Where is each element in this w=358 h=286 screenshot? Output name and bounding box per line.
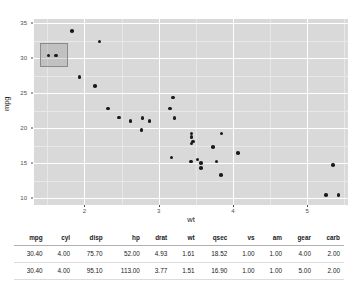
table-cell: 3.77 bbox=[144, 262, 171, 279]
table-cell: 113.00 bbox=[107, 262, 144, 279]
data-table: mpgcyldisphpdratwtqsecvsamgearcarb 30.40… bbox=[14, 231, 344, 280]
table-column-header[interactable]: hp bbox=[107, 231, 144, 245]
y-tick-mark bbox=[31, 23, 33, 24]
gridline-minor-vertical bbox=[122, 19, 123, 205]
table-cell: 5.00 bbox=[286, 262, 315, 279]
gridline-major-horizontal bbox=[34, 23, 348, 24]
table-column-header[interactable]: cyl bbox=[47, 231, 74, 245]
table-column-header[interactable]: gear bbox=[286, 231, 315, 245]
table-cell: 2.00 bbox=[315, 245, 344, 262]
data-point[interactable] bbox=[171, 96, 175, 100]
x-tick-label: 5 bbox=[295, 208, 319, 214]
plot-panel[interactable] bbox=[34, 19, 348, 205]
table-cell: 30.40 bbox=[14, 262, 47, 279]
gridline-minor-vertical bbox=[196, 19, 197, 205]
data-point[interactable] bbox=[337, 193, 341, 197]
data-point[interactable] bbox=[236, 151, 240, 155]
x-axis-title: wt bbox=[34, 216, 348, 224]
gridline-minor-horizontal bbox=[34, 146, 348, 147]
table-column-header[interactable]: disp bbox=[74, 231, 107, 245]
table-column-header[interactable]: qsec bbox=[199, 231, 232, 245]
table-cell: 1.00 bbox=[231, 245, 258, 262]
table-cell: 1.00 bbox=[259, 245, 286, 262]
table-cell: 75.70 bbox=[74, 245, 107, 262]
scatter-plot[interactable]: mpg wt 1015202530352345 bbox=[0, 0, 358, 228]
y-tick-mark bbox=[31, 128, 33, 129]
data-point[interactable] bbox=[331, 163, 335, 167]
table-cell: 4.00 bbox=[47, 262, 74, 279]
y-tick-label: 20 bbox=[5, 125, 27, 131]
data-point[interactable] bbox=[211, 145, 215, 149]
table-cell: 30.40 bbox=[14, 245, 47, 262]
table-row[interactable]: 30.404.0095.10113.003.771.5116.901.001.0… bbox=[14, 262, 344, 279]
data-point[interactable] bbox=[148, 119, 152, 123]
table-cell: 1.00 bbox=[231, 262, 258, 279]
table-cell: 1.51 bbox=[171, 262, 198, 279]
data-point[interactable] bbox=[129, 119, 133, 123]
data-point[interactable] bbox=[93, 84, 97, 88]
data-point[interactable] bbox=[98, 40, 102, 44]
gridline-major-horizontal bbox=[34, 128, 348, 129]
plot-and-table-page: mpg wt 1015202530352345 mpgcyldisphpdrat… bbox=[0, 0, 358, 286]
data-point[interactable] bbox=[199, 166, 203, 170]
x-tick-mark bbox=[84, 205, 85, 207]
y-tick-mark bbox=[31, 198, 33, 199]
selected-rows-table: mpgcyldisphpdratwtqsecvsamgearcarb 30.40… bbox=[14, 231, 344, 280]
table-body: 30.404.0075.7052.004.931.6118.521.001.00… bbox=[14, 245, 344, 279]
y-tick-mark bbox=[31, 163, 33, 164]
gridline-minor-horizontal bbox=[34, 181, 348, 182]
y-tick-mark bbox=[31, 58, 33, 59]
data-point[interactable] bbox=[140, 128, 144, 132]
gridline-major-horizontal bbox=[34, 58, 348, 59]
data-point[interactable] bbox=[190, 135, 194, 139]
table-cell: 95.10 bbox=[74, 262, 107, 279]
table-column-header[interactable]: drat bbox=[144, 231, 171, 245]
table-column-header[interactable]: mpg bbox=[14, 231, 47, 245]
table-column-header[interactable]: am bbox=[259, 231, 286, 245]
table-cell: 2.00 bbox=[315, 262, 344, 279]
table-column-header[interactable]: vs bbox=[231, 231, 258, 245]
table-cell: 4.93 bbox=[144, 245, 171, 262]
data-point[interactable] bbox=[170, 156, 174, 160]
gridline-minor-horizontal bbox=[34, 111, 348, 112]
table-column-header[interactable]: wt bbox=[171, 231, 198, 245]
gridline-major-vertical bbox=[307, 19, 308, 205]
gridline-major-vertical bbox=[233, 19, 234, 205]
x-tick-mark bbox=[233, 205, 234, 207]
gridline-minor-horizontal bbox=[34, 41, 348, 42]
x-tick-mark bbox=[159, 205, 160, 207]
gridline-major-horizontal bbox=[34, 163, 348, 164]
data-point[interactable] bbox=[141, 116, 145, 120]
gridline-minor-vertical bbox=[270, 19, 271, 205]
data-point[interactable] bbox=[78, 75, 82, 79]
gridline-major-horizontal bbox=[34, 93, 348, 94]
data-point[interactable] bbox=[70, 29, 74, 33]
gridline-minor-horizontal bbox=[34, 76, 348, 77]
data-point[interactable] bbox=[173, 116, 177, 120]
data-point[interactable] bbox=[220, 132, 224, 136]
data-point[interactable] bbox=[54, 54, 58, 58]
x-tick-label: 3 bbox=[147, 208, 171, 214]
y-tick-label: 35 bbox=[5, 20, 27, 26]
data-point[interactable] bbox=[168, 107, 172, 111]
y-tick-label: 30 bbox=[5, 55, 27, 61]
table-cell: 4.00 bbox=[47, 245, 74, 262]
x-tick-label: 4 bbox=[221, 208, 245, 214]
table-cell: 52.00 bbox=[107, 245, 144, 262]
table-row[interactable]: 30.404.0075.7052.004.931.6118.521.001.00… bbox=[14, 245, 344, 262]
gridline-major-horizontal bbox=[34, 198, 348, 199]
table-cell: 18.52 bbox=[199, 245, 232, 262]
table-column-header[interactable]: carb bbox=[315, 231, 344, 245]
gridline-minor-vertical bbox=[344, 19, 345, 205]
x-tick-label: 2 bbox=[72, 208, 96, 214]
data-point[interactable] bbox=[324, 193, 328, 197]
y-tick-mark bbox=[31, 93, 33, 94]
table-header-row: mpgcyldisphpdratwtqsecvsamgearcarb bbox=[14, 231, 344, 245]
gridline-major-vertical bbox=[84, 19, 85, 205]
table-cell: 1.61 bbox=[171, 245, 198, 262]
x-tick-mark bbox=[307, 205, 308, 207]
table-cell: 1.00 bbox=[259, 262, 286, 279]
data-point[interactable] bbox=[199, 161, 203, 165]
data-point[interactable] bbox=[219, 173, 223, 177]
data-point[interactable] bbox=[117, 116, 121, 120]
